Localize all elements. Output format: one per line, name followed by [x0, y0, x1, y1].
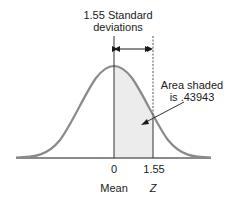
- arrowhead-right-icon: [147, 46, 153, 52]
- std-dev-label-line2: deviations: [66, 21, 170, 33]
- tick-label-z-value: 1.55: [141, 163, 167, 175]
- axis-label-z: Z: [147, 182, 159, 194]
- area-annotation-line2: is .43943: [160, 91, 224, 103]
- area-annotation-line1: Area shaded: [160, 79, 224, 91]
- axis-label-mean: Mean: [96, 182, 132, 194]
- tick-label-zero: 0: [108, 163, 120, 175]
- normal-distribution-diagram: 1.55 Standard deviations Area shaded is …: [0, 0, 233, 200]
- std-dev-label: 1.55 Standard deviations: [66, 9, 170, 33]
- std-dev-label-line1: 1.55 Standard: [66, 9, 170, 21]
- area-annotation: Area shaded is .43943: [160, 79, 224, 103]
- arrowhead-left-icon: [114, 46, 120, 52]
